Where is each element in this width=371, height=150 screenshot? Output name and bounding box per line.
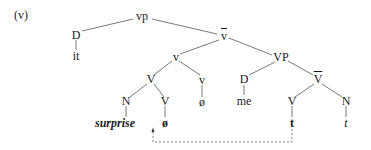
node-V-bar: V <box>314 73 323 85</box>
branch-vp-d <box>82 19 133 31</box>
branch-Vbar-N <box>322 84 342 97</box>
branch-v-v <box>179 61 200 75</box>
node-v-complex: v <box>173 51 179 63</box>
node-V-compound: V <box>147 73 156 85</box>
trace-v: t <box>290 117 294 129</box>
branch-V-N <box>130 84 147 97</box>
trace-n: t <box>344 117 347 129</box>
branch-vbar-VP <box>229 38 272 55</box>
node-it: it <box>73 50 80 62</box>
node-me: me <box>237 95 252 107</box>
syntax-tree: (v) vp D it v v VP V v D V N V ø me V N … <box>0 0 371 150</box>
example-label: (v) <box>14 9 28 21</box>
branch-Vbar-V <box>295 84 314 97</box>
node-v-head: v <box>199 74 205 86</box>
branch-VP-D <box>249 62 275 75</box>
node-n-incorporated: N <box>122 95 131 107</box>
node-n-lower: N <box>342 95 351 107</box>
branch-vbar-v <box>180 40 219 54</box>
movement-arrowhead-icon <box>152 128 155 133</box>
word-surprise: surprise <box>95 117 135 129</box>
node-vp-root: vp <box>136 10 148 22</box>
branch-vp-vbar <box>152 19 217 34</box>
node-v-null-bold: ø <box>162 117 168 129</box>
node-d-object: D <box>240 73 249 85</box>
node-VP: VP <box>273 51 288 63</box>
node-v-null: ø <box>199 96 205 108</box>
node-v-bar: v <box>221 30 227 42</box>
branch-VP-Vbar <box>288 61 313 75</box>
branch-v-V <box>154 61 172 75</box>
node-V-lower: V <box>288 95 297 107</box>
node-d-subject: D <box>72 29 81 41</box>
movement-arrow-path <box>153 129 292 142</box>
node-v-incorporated: V <box>161 95 170 107</box>
